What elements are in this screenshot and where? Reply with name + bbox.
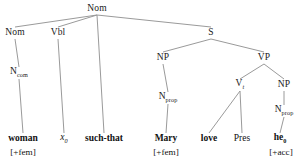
- node-subscript: t: [243, 83, 245, 90]
- tree-edge: [240, 91, 242, 133]
- node-label: N: [10, 66, 17, 76]
- node-label: V: [236, 78, 243, 88]
- tree-node-root: Nom: [87, 4, 106, 14]
- syntax-tree-diagram: NomNomVblSNcomNPVPNpropVtNPNpropwoman[+f…: [0, 0, 307, 162]
- tree-edge: [163, 64, 168, 92]
- tree-node-vbl: Vbl: [51, 28, 66, 38]
- node-label: NP: [157, 52, 169, 62]
- tree-edge: [280, 117, 284, 133]
- node-label: N: [275, 104, 282, 114]
- tree-node-np2: NP: [278, 80, 290, 90]
- tree-edges: [0, 0, 307, 162]
- node-subscript: prop: [166, 96, 178, 103]
- tree-edge: [15, 15, 97, 27]
- leaf-subscript: 0: [283, 137, 286, 144]
- tree-leaf-woman: woman: [8, 134, 38, 144]
- tree-edge: [97, 15, 104, 133]
- leaf-label: such-that: [85, 133, 123, 143]
- node-label: Nom: [87, 3, 106, 13]
- tree-edge: [58, 15, 97, 27]
- tree-node-s: S: [208, 28, 213, 38]
- leaf-label: Pres: [234, 133, 250, 143]
- tree-edge: [209, 91, 240, 133]
- tree-node-nprop1: Nprop: [159, 92, 178, 103]
- tree-edge: [97, 15, 211, 27]
- leaf-label: Mary: [155, 133, 178, 143]
- tree-leaf-he0: he0: [274, 133, 287, 144]
- leaf-label: love: [201, 133, 217, 143]
- node-label: N: [159, 91, 166, 101]
- tree-leaf-pres: Pres: [234, 134, 250, 144]
- tree-leaf-x0: x0: [60, 133, 67, 144]
- node-label: NP: [278, 79, 290, 89]
- tree-edge: [240, 64, 264, 79]
- leaf-feature-mary: [+fem]: [153, 148, 179, 157]
- tree-edge: [163, 39, 211, 52]
- tree-edge: [58, 39, 64, 133]
- tree-node-vp: VP: [258, 53, 270, 63]
- tree-node-nprop2: Nprop: [275, 105, 294, 116]
- tree-leaf-suchthat: such-that: [85, 134, 123, 144]
- node-label: S: [208, 27, 213, 37]
- node-subscript: com: [17, 71, 28, 78]
- leaf-label: he: [274, 132, 284, 142]
- node-label: Vbl: [51, 27, 66, 37]
- leaf-subscript: 0: [65, 137, 68, 144]
- leaf-label: woman: [8, 133, 38, 143]
- tree-node-np1: NP: [157, 53, 169, 63]
- tree-edge: [166, 104, 168, 133]
- tree-edge: [15, 39, 19, 67]
- node-subscript: prop: [282, 109, 294, 116]
- tree-leaf-mary: Mary: [155, 134, 178, 144]
- leaf-feature-woman: [+fem]: [10, 148, 36, 157]
- tree-node-nom2: Nom: [5, 28, 24, 38]
- tree-node-vt: Vt: [236, 79, 245, 90]
- leaf-feature-he0: [+acc]: [269, 148, 293, 157]
- tree-leaf-love: love: [201, 134, 217, 144]
- tree-edge: [19, 79, 23, 133]
- node-label: Nom: [5, 27, 24, 37]
- tree-edge: [264, 64, 284, 79]
- tree-edge: [211, 39, 264, 52]
- tree-node-ncom: Ncom: [10, 67, 28, 78]
- node-label: VP: [258, 52, 270, 62]
